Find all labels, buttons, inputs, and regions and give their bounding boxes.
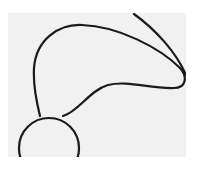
base-circle [19, 118, 79, 172]
line-drawing [0, 0, 203, 172]
figure-canvas [0, 0, 203, 172]
